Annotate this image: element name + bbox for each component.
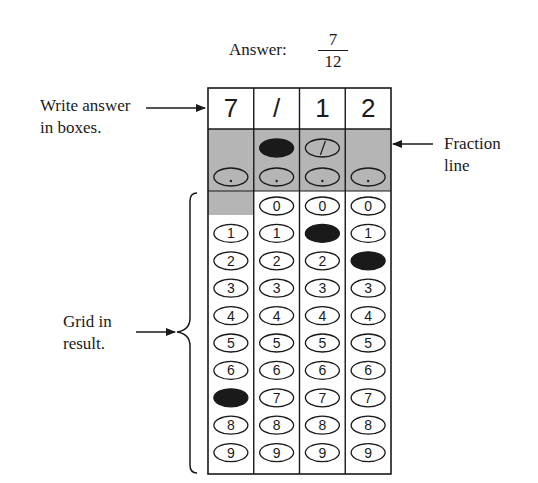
digit-label: 5: [364, 335, 372, 351]
decimal-dot-icon: [275, 180, 277, 182]
digit-label: 2: [318, 253, 326, 269]
decimal-dot-icon: [367, 180, 369, 182]
digit-label: 0: [273, 198, 281, 214]
digit-label: 6: [227, 362, 235, 378]
answer-box-3: 2: [361, 93, 375, 123]
digit-label: 9: [273, 445, 281, 461]
digit-label: 4: [364, 308, 372, 324]
digit-label: 4: [273, 308, 281, 324]
digit-label: 1: [273, 225, 281, 241]
digit-label: 9: [318, 445, 326, 461]
digit-label: 7: [364, 390, 372, 406]
digit-label: 3: [318, 280, 326, 296]
digit-label: 3: [273, 280, 281, 296]
digit-label: 3: [364, 280, 372, 296]
digit-label: 6: [364, 362, 372, 378]
digit-label: 2: [227, 253, 235, 269]
decimal-dot-icon: [321, 180, 323, 182]
digit-label: 7: [318, 390, 326, 406]
digit-label: 8: [227, 417, 235, 433]
fraction-bubble-filled: [260, 139, 294, 157]
digit-label: 6: [273, 362, 281, 378]
digit-label: 1: [227, 225, 235, 241]
digit-label: 6: [318, 362, 326, 378]
digit-label: 4: [227, 308, 235, 324]
answer-box-1: /: [273, 93, 281, 123]
digit-label: 2: [273, 253, 281, 269]
decimal-dot-icon: [230, 180, 232, 182]
digit-label: 8: [364, 417, 372, 433]
digit-label: 5: [318, 335, 326, 351]
digit-label: 3: [227, 280, 235, 296]
digit-label: 0: [364, 198, 372, 214]
answer-grid: 712345689/012345678910234567892013456789: [0, 0, 538, 483]
digit-label: 5: [227, 335, 235, 351]
digit-label: 0: [318, 198, 326, 214]
digit-label: 9: [227, 445, 235, 461]
digit-label: 4: [318, 308, 326, 324]
curly-brace-icon: [177, 193, 197, 473]
answer-box-2: 1: [315, 93, 329, 123]
digit-label: 1: [364, 225, 372, 241]
digit-label: 7: [273, 390, 281, 406]
first-column-zero-blank: [208, 191, 254, 215]
digit-bubble-filled: [305, 224, 339, 242]
digit-label: 8: [318, 417, 326, 433]
answer-box-0: 7: [224, 93, 238, 123]
digit-label: 9: [364, 445, 372, 461]
digit-label: 5: [273, 335, 281, 351]
digit-label: 8: [273, 417, 281, 433]
digit-bubble-filled: [351, 252, 385, 270]
digit-bubble-filled: [214, 389, 248, 407]
